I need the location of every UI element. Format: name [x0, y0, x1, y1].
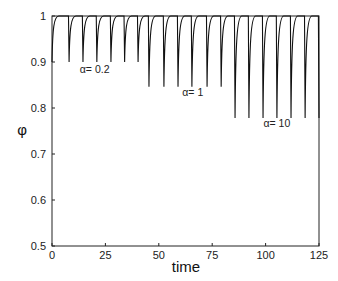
- svg-text:100: 100: [256, 249, 274, 261]
- svg-text:0: 0: [49, 249, 55, 261]
- y-axis-ticks: 0.50.60.70.80.91: [31, 10, 55, 252]
- svg-text:25: 25: [99, 249, 111, 261]
- svg-text:75: 75: [206, 249, 218, 261]
- svg-text:0.9: 0.9: [31, 56, 46, 68]
- svg-text:0.7: 0.7: [31, 148, 46, 160]
- svg-text:0.8: 0.8: [31, 102, 46, 114]
- svg-text:1: 1: [40, 10, 46, 22]
- annotation-alpha-1: α= 1: [182, 86, 203, 98]
- svg-text:0.6: 0.6: [31, 194, 46, 206]
- annotation-alpha-0-2: α= 0.2: [80, 63, 110, 75]
- phi-vs-time-chart: 0.50.60.70.80.91 0255075100125 time φ α=…: [0, 0, 338, 281]
- plot-frame: [52, 16, 319, 246]
- x-axis-title: time: [172, 258, 200, 275]
- annotation-alpha-10: α= 10: [263, 117, 290, 129]
- y-axis-title: φ: [17, 121, 27, 138]
- svg-text:0.5: 0.5: [31, 240, 46, 252]
- svg-text:125: 125: [310, 249, 328, 261]
- svg-text:50: 50: [153, 249, 165, 261]
